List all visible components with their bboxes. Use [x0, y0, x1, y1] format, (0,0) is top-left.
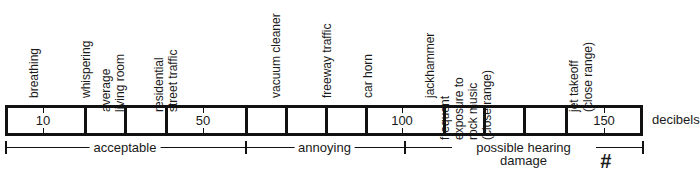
source-label-line: freeway traffic: [320, 24, 334, 98]
source-label-line: car horn: [361, 54, 375, 98]
scale-number: 100: [390, 113, 414, 128]
source-label-line: vacuum cleaner: [269, 13, 283, 98]
source-label-line: residential: [152, 50, 166, 112]
scale-number: 50: [195, 113, 211, 128]
scale-divider: [325, 108, 328, 133]
zone-label: annoying: [294, 141, 355, 154]
source-label: breathing: [27, 48, 41, 98]
zone-label: acceptable: [90, 141, 161, 154]
handwritten-mark: #: [600, 150, 611, 173]
source-label-line: living room: [113, 54, 127, 112]
source-label-line: street traffic: [166, 50, 180, 112]
source-label: freeway traffic: [320, 24, 334, 98]
scale-number: 10: [35, 113, 51, 128]
source-label: averageliving room: [99, 54, 127, 112]
scale-divider: [365, 108, 368, 133]
source-label-line: (close range): [581, 42, 595, 112]
source-label: whispering: [79, 41, 93, 98]
zone-boundary: [642, 141, 644, 154]
source-label-line: breathing: [27, 48, 41, 98]
unit-label: decibels: [652, 112, 700, 127]
scale-divider: [245, 108, 248, 133]
scale-number: 150: [592, 113, 616, 128]
source-label: jet takeoff(close range): [567, 42, 595, 112]
source-label: residentialstreet traffic: [152, 50, 180, 112]
scale-divider: [443, 108, 446, 133]
source-label: jackhammer: [423, 33, 437, 98]
zone-boundary: [5, 141, 7, 154]
scale-divider: [565, 108, 568, 133]
scale-divider: [483, 108, 486, 133]
zone-boundary: [404, 141, 406, 154]
source-label-line: jackhammer: [423, 33, 437, 98]
source-label: car horn: [361, 54, 375, 98]
scale-divider: [165, 108, 168, 133]
scale-divider: [523, 108, 526, 133]
zone-boundary: [245, 141, 247, 154]
source-label-line: jet takeoff: [567, 42, 581, 112]
source-label-line: average: [99, 54, 113, 112]
decibel-scale: 1050100150: [5, 105, 643, 136]
zone-label: possible hearingdamage: [452, 141, 596, 167]
scale-divider: [124, 108, 127, 133]
scale-divider: [84, 108, 87, 133]
source-label: vacuum cleaner: [269, 13, 283, 98]
scale-divider: [285, 108, 288, 133]
source-label-line: whispering: [79, 41, 93, 98]
